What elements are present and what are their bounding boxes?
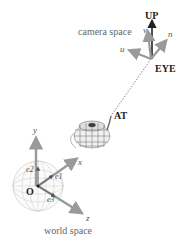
n-axis: [151, 42, 165, 59]
y-label: y: [33, 126, 37, 135]
e2-label: e2: [26, 166, 34, 174]
e1-label: e1: [55, 173, 63, 181]
v-axis: [148, 33, 151, 59]
origin-label: O: [26, 187, 34, 197]
u-label: u: [120, 45, 125, 54]
u-axis: [131, 51, 151, 59]
teapot-icon: [70, 116, 111, 148]
e3-label: e3: [47, 196, 55, 204]
eye-label: EYE: [155, 64, 176, 74]
line-of-sight: [111, 59, 151, 116]
at-label: AT: [114, 111, 127, 121]
camera-axes: [131, 22, 165, 59]
world-space-label: world space: [44, 226, 92, 236]
n-label: n: [168, 30, 173, 39]
up-label: UP: [145, 11, 158, 21]
camera-space-label: camera space: [78, 27, 132, 37]
z-label: z: [86, 214, 90, 223]
camera-world-diagram: [0, 0, 190, 250]
x-label: x: [78, 158, 82, 167]
v-label: v: [143, 26, 147, 35]
